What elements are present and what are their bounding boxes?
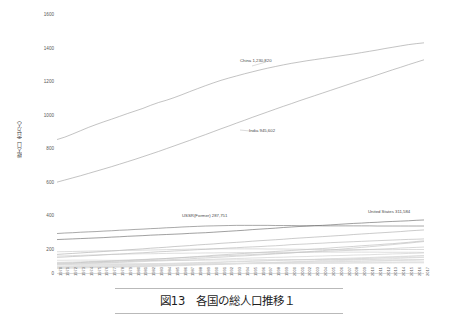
x-tick-label: 2012: [387, 267, 391, 276]
x-tick-label: 2017: [426, 267, 430, 276]
x-tick-label: 1980: [137, 267, 141, 276]
x-tick-label: 1974: [90, 267, 94, 276]
chart-area: 総人口（百万人） 1600 1400 1200 1000 800 600 400…: [0, 0, 455, 288]
x-tick-label: 1971: [66, 267, 70, 276]
x-tick-label: 1988: [199, 267, 203, 276]
x-tick-label: 1984: [168, 267, 172, 276]
x-tick-label: 1986: [184, 267, 188, 276]
series-line: [57, 252, 424, 256]
x-tick-label: 1987: [191, 267, 195, 276]
x-tick-label: 2004: [324, 267, 328, 276]
figure-caption-block: 図13 各国の総人口推移１: [0, 288, 455, 320]
x-tick-label: 2008: [355, 267, 359, 276]
x-tick-label: 1997: [269, 267, 273, 276]
x-tick-label: 1992: [230, 267, 234, 276]
india-annotation: India 945,602: [249, 128, 275, 133]
figure-caption: 図13 各国の総人口推移１: [0, 292, 455, 310]
ussr-annotation: USSR(Former) 287,751: [182, 213, 227, 218]
series-line: [57, 225, 424, 233]
united-states-annotation: United States 311,584: [368, 209, 410, 214]
x-tick-label: 1973: [82, 267, 86, 276]
x-tick-label: 2010: [371, 267, 375, 276]
x-tick-label: 1970: [59, 267, 63, 276]
x-tick-label: 1976: [105, 267, 109, 276]
x-tick-label: 1985: [176, 267, 180, 276]
x-tick-label: 2011: [379, 267, 383, 276]
x-tick-label: 1990: [215, 267, 219, 276]
x-tick-label: 1977: [113, 267, 117, 276]
caption-rule-top: [115, 288, 343, 289]
x-tick-label: 2009: [363, 267, 367, 276]
x-tick-label: 2001: [301, 267, 305, 276]
x-tick-label: 2015: [410, 267, 414, 276]
x-tick-label: 2005: [332, 267, 336, 276]
caption-rule-bottom: [115, 313, 343, 314]
x-tick-label: 1994: [246, 267, 250, 276]
figure-container: 総人口（百万人） 1600 1400 1200 1000 800 600 400…: [0, 0, 455, 320]
x-tick-label: 2014: [402, 267, 406, 276]
x-tick-label: 1993: [238, 267, 242, 276]
x-tick-label: 1996: [262, 267, 266, 276]
x-tick-label: 1982: [152, 267, 156, 276]
x-tick-label: 1975: [98, 267, 102, 276]
x-tick-label: 1995: [254, 267, 258, 276]
series-line: [57, 60, 424, 182]
x-tick-label: 2013: [394, 267, 398, 276]
x-tick-label: 1999: [285, 267, 289, 276]
china-annotation: China 1,230,820: [240, 58, 272, 63]
series-layer: [57, 43, 424, 269]
x-tick-label: 1978: [121, 267, 125, 276]
x-tick-label: 1998: [277, 267, 281, 276]
x-tick-label: 1979: [129, 267, 133, 276]
x-tick-label: 1983: [160, 267, 164, 276]
x-tick-label: 2016: [418, 267, 422, 276]
line-plot-svg: [0, 0, 455, 288]
x-tick-label: 1972: [74, 267, 78, 276]
x-tick-label: 1989: [207, 267, 211, 276]
x-tick-label: 2000: [293, 267, 297, 276]
series-line: [57, 220, 424, 240]
x-tick-label: 1991: [223, 267, 227, 276]
x-tick-label: 2007: [348, 267, 352, 276]
x-tick-label: 2002: [308, 267, 312, 276]
x-tick-label: 1981: [144, 267, 148, 276]
x-tick-label: 2006: [340, 267, 344, 276]
x-tick-label: 2003: [316, 267, 320, 276]
